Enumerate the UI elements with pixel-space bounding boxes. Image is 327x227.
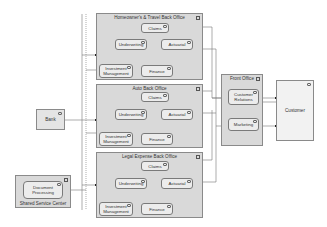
component-icon — [167, 205, 171, 208]
group-shared-service-center[interactable]: Document Processing Shared Service Cente… — [15, 175, 71, 208]
group-front-office[interactable]: Front Office Customer Relations Marketin… — [221, 74, 263, 146]
component-icon — [167, 67, 171, 70]
collapse-icon[interactable] — [196, 155, 200, 159]
node-underwriting[interactable]: Underwriting — [115, 39, 147, 50]
node-finance[interactable]: Finance — [141, 203, 173, 215]
node-investment-management[interactable]: Investment Management — [99, 64, 133, 78]
component-icon — [187, 111, 191, 114]
node-investment-management[interactable]: Investment Management — [99, 132, 133, 146]
component-icon — [163, 94, 167, 97]
collapse-icon[interactable] — [64, 178, 68, 182]
collapse-icon[interactable] — [196, 87, 200, 91]
node-customer-relations[interactable]: Customer Relations — [228, 89, 259, 105]
node-actuarial[interactable]: Actuarial — [161, 178, 193, 189]
group-title: Legal Expense Back Office — [97, 154, 202, 159]
group-homeowners-back-office[interactable]: Homeowner's & Travel Back Office Claims … — [96, 13, 203, 80]
collapse-icon[interactable] — [256, 77, 260, 81]
node-underwriting[interactable]: Underwriting — [115, 178, 147, 189]
component-icon — [58, 112, 62, 115]
node-document-processing[interactable]: Document Processing — [23, 181, 63, 199]
node-underwriting[interactable]: Underwriting — [115, 109, 147, 120]
component-icon — [187, 180, 191, 183]
component-icon — [127, 66, 131, 69]
group-title: Shared Service Center — [16, 201, 70, 206]
node-investment-management[interactable]: Investment Management — [99, 202, 133, 216]
node-finance[interactable]: Finance — [141, 65, 173, 77]
node-actuarial[interactable]: Actuarial — [161, 109, 193, 120]
group-legal-expense-back-office[interactable]: Legal Expense Back Office Claims Underwr… — [96, 152, 203, 218]
node-customer[interactable]: Customer — [276, 80, 314, 141]
node-claims[interactable]: Claims — [141, 161, 169, 171]
node-bank[interactable]: Bank — [36, 109, 65, 130]
group-title: Homeowner's & Travel Back Office — [97, 15, 202, 20]
group-auto-back-office[interactable]: Auto Back Office Claims Underwriting Act… — [96, 84, 203, 148]
component-icon — [127, 134, 131, 137]
component-icon — [187, 41, 191, 44]
node-claims[interactable]: Claims — [141, 92, 169, 102]
component-icon — [57, 183, 61, 186]
component-icon — [253, 91, 257, 94]
group-title: Auto Back Office — [97, 86, 202, 91]
node-finance[interactable]: Finance — [141, 133, 173, 145]
component-icon — [127, 204, 131, 207]
component-icon — [253, 120, 257, 123]
component-icon — [141, 180, 145, 183]
node-claims[interactable]: Claims — [141, 23, 169, 33]
component-icon — [163, 163, 167, 166]
collapse-icon[interactable] — [196, 16, 200, 20]
node-marketing[interactable]: Marketing — [228, 118, 259, 131]
component-icon — [167, 135, 171, 138]
component-icon — [141, 111, 145, 114]
component-icon — [141, 41, 145, 44]
component-icon — [307, 83, 311, 86]
component-icon — [163, 25, 167, 28]
node-actuarial[interactable]: Actuarial — [161, 39, 193, 50]
